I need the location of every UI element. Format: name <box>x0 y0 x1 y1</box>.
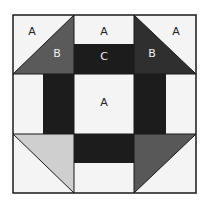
bottom-dark-bar <box>74 134 134 163</box>
label-center-a: A <box>100 96 108 109</box>
label-top-left-a: A <box>28 25 36 38</box>
label-top-center-a: A <box>100 25 108 38</box>
quilt-block-diagram: A B A C B A A <box>0 0 208 204</box>
label-top-left-b: B <box>53 47 61 60</box>
left-dark-bar <box>43 74 74 134</box>
label-top-center-c: C <box>100 50 108 63</box>
label-top-right-a: A <box>172 25 180 38</box>
label-top-right-b: B <box>148 47 156 60</box>
right-dark-bar <box>134 74 166 134</box>
